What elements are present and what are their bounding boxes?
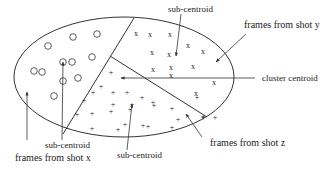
frame-marker-plus: +	[91, 88, 96, 97]
frame-marker-plus: +	[82, 96, 87, 105]
label-sub-centroid-bottom-left: sub-centroid	[45, 140, 90, 150]
frame-marker-plus: +	[146, 122, 151, 131]
frame-marker-plus: +	[109, 68, 114, 77]
label-sub-centroid-top: sub-centroid	[168, 4, 213, 14]
frame-marker-plus: +	[176, 115, 181, 124]
frame-marker-circle	[69, 59, 76, 66]
frame-marker-circle	[51, 93, 58, 100]
frame-marker-circle	[94, 31, 101, 38]
frame-marker-circle	[89, 54, 96, 61]
frame-marker-x: x	[167, 50, 171, 59]
frame-marker-plus: +	[75, 110, 80, 119]
frame-marker-plus: +	[90, 109, 95, 118]
frame-marker-circle	[39, 69, 46, 76]
frame-marker-plus: +	[170, 123, 175, 132]
label-frames-from-shot-x: frames from shot x	[15, 152, 91, 163]
frame-marker-x: x	[151, 65, 155, 74]
frame-marker-circle	[70, 34, 77, 41]
frame-marker-plus: +	[99, 82, 104, 91]
label-sub-centroid-bottom-mid: sub-centroid	[117, 150, 162, 160]
frame-marker-plus: +	[109, 107, 114, 116]
frame-marker-x: x	[169, 71, 173, 80]
frame-marker-x: x	[212, 78, 216, 87]
frame-marker-plus: +	[116, 125, 121, 134]
label-frames-from-shot-z: frames from shot z	[210, 137, 286, 148]
frame-marker-circle	[31, 68, 38, 75]
frame-marker-plus: +	[125, 88, 130, 97]
frame-marker-plus: +	[213, 113, 218, 122]
frame-marker-plus: +	[170, 104, 175, 113]
frame-marker-x: x	[150, 48, 154, 57]
cluster-diagram: xxxxxxxxxxxxx ++++++++++++++++++++++++++…	[0, 0, 332, 169]
frame-marker-x: x	[186, 41, 190, 50]
shot-y-markers: xxxxxxxxxxxxx	[134, 29, 216, 98]
frame-marker-circle	[45, 43, 52, 50]
frame-marker-x: x	[201, 47, 205, 56]
frame-marker-plus: +	[90, 124, 95, 133]
frame-marker-plus: +	[111, 88, 116, 97]
label-frames-from-shot-y: frames from shot y	[244, 19, 320, 30]
frame-marker-x: x	[148, 30, 152, 39]
frame-marker-plus: +	[195, 93, 200, 102]
frame-marker-x: x	[191, 62, 195, 71]
label-cluster-centroid: cluster centroid	[262, 73, 318, 83]
sub-centroid-x-arrow	[62, 62, 63, 140]
frame-marker-circle	[75, 75, 82, 82]
divider-x-yz	[63, 18, 134, 134]
frame-marker-plus: +	[140, 93, 145, 102]
frame-marker-x: x	[168, 30, 172, 39]
frame-marker-plus: +	[152, 101, 157, 110]
frame-marker-plus: +	[123, 120, 128, 129]
frame-marker-plus: +	[201, 113, 206, 122]
sub-centroid-y-arrow	[176, 14, 181, 56]
frame-marker-x: x	[134, 29, 138, 38]
